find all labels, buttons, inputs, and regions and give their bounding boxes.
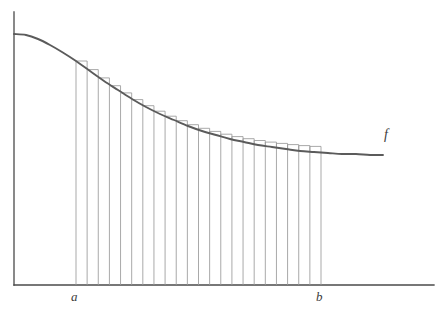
function-label: f [384, 128, 388, 142]
partition-lines-group [76, 61, 321, 285]
lower-limit-label: a [71, 290, 78, 303]
riemann-sum-plot [0, 0, 441, 319]
upper-limit-label: b [316, 290, 323, 303]
axes-group [14, 12, 434, 285]
riemann-sum-figure: a b f [0, 0, 441, 319]
